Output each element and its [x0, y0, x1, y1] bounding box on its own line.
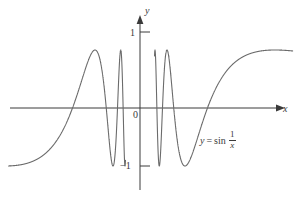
equation-equals-sign: =: [206, 136, 212, 146]
fraction-numerator: 1: [229, 130, 236, 139]
equation-function-name: sin: [214, 136, 226, 146]
y-axis: [137, 15, 144, 190]
x-axis-label: x: [283, 104, 287, 114]
tick-label-negative-one: −1: [120, 161, 131, 171]
equation-fraction: 1 x: [229, 130, 236, 150]
plot-canvas: [0, 0, 294, 209]
y-axis-label: y: [145, 6, 149, 16]
equation-lhs: y: [200, 136, 204, 146]
curve-equation-label: y = sin 1 x: [200, 131, 236, 151]
origin-label: 0: [133, 110, 138, 120]
x-axis: [10, 105, 285, 112]
fraction-denominator: x: [229, 141, 235, 150]
tick-label-one: 1: [130, 28, 135, 38]
sin-one-over-x-figure: y x 1 −1 0 y = sin 1 x: [0, 0, 294, 209]
